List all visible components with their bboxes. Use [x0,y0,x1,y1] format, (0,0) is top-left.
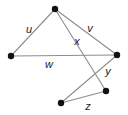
edge-label-u: u [26,24,32,35]
edge-label-x: x [74,36,80,47]
edge-w [11,55,117,56]
vertex-d [58,100,64,106]
edge-v [55,9,117,55]
edge-label-w: w [45,59,53,70]
graph-diagram: u v w x y z [0,0,128,115]
vertex-c [114,52,120,58]
vertex-a [52,6,58,12]
edge-u [11,9,55,56]
vertex-e [103,88,109,94]
graph-canvas [0,0,128,115]
vertex-b [8,53,14,59]
edge-label-v: v [87,23,93,34]
edge-label-z: z [85,101,91,112]
edge-x [55,9,106,91]
edge-label-y: y [105,66,111,77]
